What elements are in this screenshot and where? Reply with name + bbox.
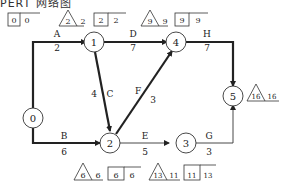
node2-box-right: 6 [129,171,134,180]
node-0: 0 [23,108,43,128]
node4-annotation: 9 9 9 9 [141,10,208,26]
edge-h-name: H [203,29,211,39]
node1-tri-value: 2 [65,17,70,26]
node-4: 4 [166,32,186,52]
node5-annotation: 16 16 [247,84,279,101]
edge-a-name: A [53,29,61,39]
edge-d-name: D [129,29,136,39]
node3-box-right: 13 [204,172,213,180]
edge-f-duration: 3 [150,95,156,105]
node4-tri-value: 9 [147,17,152,26]
edge-c-duration: 4 [91,89,97,99]
edge-d-duration: 7 [130,43,136,53]
edge-g-name: G [205,131,212,141]
edge-c-name: C [107,89,114,99]
edge-e-name: E [142,131,149,141]
node4-tri-right: 9 [162,17,167,26]
node-5: 5 [223,86,243,106]
node-1: 1 [84,32,104,52]
node1-tri-right: 2 [80,17,85,26]
node3-tri-right: 11 [170,172,179,180]
edge-f-name: F [135,86,141,96]
edge-h-duration: 7 [204,43,210,53]
edge-b-name: B [61,131,68,141]
node-2-label: 2 [107,138,113,149]
node3-annotation: 13 11 11 13 [149,163,216,180]
node4-box-right: 9 [195,16,200,25]
node-4-label: 4 [173,37,179,48]
edge-g-duration: 3 [206,147,212,157]
edge-e-duration: 5 [142,147,148,157]
edge-b-duration: 6 [61,147,67,157]
node0-annotation: 0 0 [8,13,40,26]
node0-box-left: 0 [11,16,16,25]
node2-box-left: 6 [113,171,118,180]
node5-tri-value: 16 [252,93,261,101]
edge-a-duration: 2 [54,43,60,53]
node0-box-right: 0 [24,16,29,25]
network-diagram: 0 0 2 2 2 2 9 9 9 9 A 2 B 6 C 4 D 7 E 5 [0,0,281,187]
node2-tri-right: 6 [95,171,100,180]
node1-box-right: 2 [113,16,118,25]
node4-box-left: 9 [179,16,184,25]
node2-tri-value: 6 [80,171,85,180]
node1-annotation: 2 2 2 2 [59,10,126,26]
node-3: 3 [176,133,196,153]
node1-box-left: 2 [98,16,103,25]
node-5-label: 5 [230,91,236,102]
node3-tri-value: 13 [154,172,163,180]
node-1-label: 1 [91,37,97,48]
edge-g [196,105,233,143]
edge-f [116,51,172,134]
node2-annotation: 6 6 6 6 [74,163,141,180]
node-0-label: 0 [30,113,36,124]
node-3-label: 3 [183,138,189,149]
node-2: 2 [100,133,120,153]
node5-tri-right: 16 [268,93,277,101]
node3-box-left: 11 [188,172,197,180]
